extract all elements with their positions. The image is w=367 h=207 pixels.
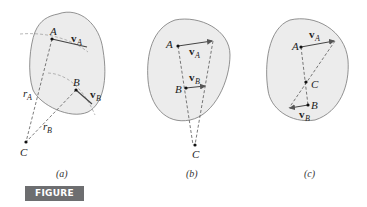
svg-text:A: A xyxy=(26,93,32,102)
svg-text:B: B xyxy=(47,126,52,135)
svg-text:B: B xyxy=(195,77,200,86)
svg-text:B: B xyxy=(96,94,101,103)
point-a xyxy=(299,45,302,48)
point-c xyxy=(304,80,307,83)
point-b xyxy=(74,88,77,91)
svg-text:(c): (c) xyxy=(304,168,316,180)
svg-text:B: B xyxy=(305,114,310,123)
figure-diagram: A vA B vB rA rB C (a) A vA vB B C (b) vA xyxy=(0,0,367,207)
svg-text:(b): (b) xyxy=(186,168,198,180)
panel-a: A vA B vB rA rB C (a) xyxy=(20,12,105,180)
rigid-body-shape xyxy=(148,19,230,121)
panel-c: vA A C B vB (c) xyxy=(267,19,349,180)
point-a xyxy=(176,44,179,47)
point-b xyxy=(184,86,187,89)
svg-text:(a): (a) xyxy=(56,168,68,180)
point-c xyxy=(24,140,27,143)
svg-text:A: A xyxy=(165,38,173,50)
svg-text:C: C xyxy=(20,146,28,158)
point-b xyxy=(306,103,309,106)
svg-text:A: A xyxy=(291,40,299,52)
svg-text:A: A xyxy=(76,38,82,47)
figure-label: FIGURE 5/7 xyxy=(25,186,84,201)
point-c xyxy=(193,143,196,146)
svg-text:C: C xyxy=(311,78,319,90)
point-a xyxy=(50,37,53,40)
panel-b: A vA vB B C (b) xyxy=(148,19,230,180)
svg-text:A: A xyxy=(49,25,57,37)
svg-text:B: B xyxy=(175,83,182,95)
svg-text:C: C xyxy=(192,148,200,160)
svg-text:B: B xyxy=(311,99,318,111)
svg-text:A: A xyxy=(194,51,200,60)
svg-text:A: A xyxy=(314,34,320,43)
svg-text:B: B xyxy=(73,76,80,88)
